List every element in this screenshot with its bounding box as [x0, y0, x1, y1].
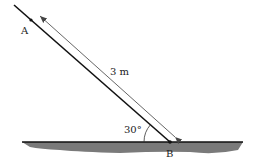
length-dimension-arrow [40, 16, 175, 137]
angle-arc [144, 125, 151, 142]
point-a-label: A [20, 25, 29, 36]
ground-surface [22, 142, 243, 153]
point-a-marker [29, 18, 32, 21]
point-b-marker [168, 140, 172, 144]
length-label: 3 m [110, 66, 130, 77]
rod [14, 5, 170, 142]
angle-label: 30° [124, 124, 142, 135]
diagram-canvas: A B 3 m 30° [0, 0, 261, 168]
point-b-label: B [166, 148, 173, 159]
